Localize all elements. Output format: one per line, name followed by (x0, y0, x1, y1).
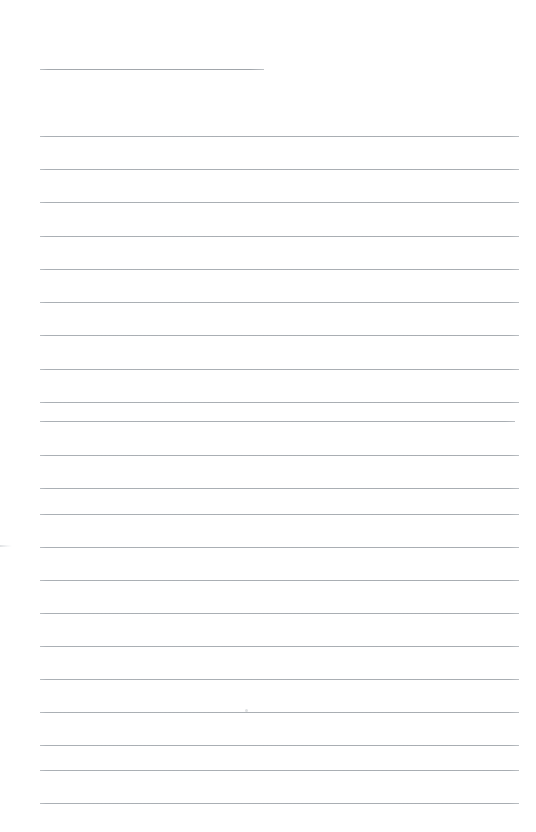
ruled-line-10[interactable] (40, 421, 515, 422)
ruled-line-1[interactable] (40, 136, 519, 137)
ruled-line-18[interactable] (40, 679, 519, 680)
ruled-line-17[interactable] (40, 646, 519, 647)
ruled-line-12[interactable] (40, 488, 519, 489)
ruled-line-14[interactable] (40, 547, 519, 548)
ruled-line-15[interactable] (40, 580, 519, 581)
ruled-line-4[interactable] (40, 236, 519, 237)
ruled-line-22[interactable] (40, 803, 519, 804)
ruled-line-6[interactable] (40, 302, 519, 303)
scan-speck-icon (245, 709, 248, 712)
scan-smudge-icon (0, 545, 12, 547)
ruled-line-11[interactable] (40, 455, 519, 456)
ruled-line-20[interactable] (40, 745, 519, 746)
ruled-line-5[interactable] (40, 269, 519, 270)
heading-rule[interactable] (40, 69, 264, 70)
ruled-line-16[interactable] (40, 613, 519, 614)
ruled-line-7[interactable] (40, 335, 519, 336)
ruled-line-19[interactable] (40, 712, 519, 713)
ruled-line-21[interactable] (40, 770, 519, 771)
lined-paper-sheet[interactable] (0, 0, 536, 832)
ruled-line-3[interactable] (40, 202, 519, 203)
ruled-line-13[interactable] (40, 514, 519, 515)
ruled-line-2[interactable] (40, 169, 519, 170)
ruled-line-8[interactable] (40, 369, 519, 370)
scanned-page (0, 0, 536, 832)
ruled-line-9[interactable] (40, 402, 519, 403)
